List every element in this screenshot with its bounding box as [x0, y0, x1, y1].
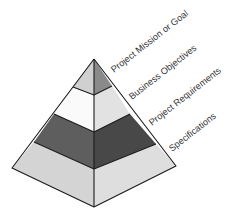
pyramid-diagram: Project Mission or Goal Business Objecti…	[0, 0, 234, 218]
label-specifications: Specifications	[167, 111, 218, 154]
